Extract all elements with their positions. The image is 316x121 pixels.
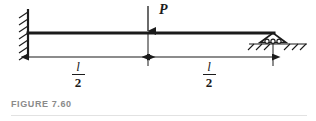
figure-caption: FIGURE 7.60: [11, 99, 72, 109]
ground-hatching: [248, 44, 306, 50]
wall-hatching: [19, 12, 28, 60]
dimension-right-numerator: l: [192, 60, 226, 74]
dimension-left-numerator: l: [61, 60, 95, 74]
dimension-left-denominator: 2: [61, 75, 95, 90]
roller-wheels: [265, 39, 281, 43]
point-load-label: P: [159, 3, 168, 17]
figure-container: P l 2 l 2 FIGURE 7.60: [0, 0, 316, 121]
dimension-right-label: l 2: [192, 60, 226, 90]
caption-divider: [11, 115, 307, 116]
roller-support-group: [248, 33, 307, 50]
dimension-right-denominator: 2: [192, 75, 226, 90]
dimension-left-label: l 2: [61, 60, 95, 90]
